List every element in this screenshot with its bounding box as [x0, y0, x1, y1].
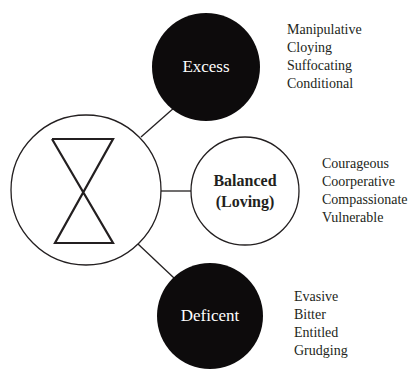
- trait-item: Vulnerable: [322, 209, 408, 227]
- balanced-label: Balanced (Loving): [191, 170, 299, 212]
- trait-item: Coorperative: [322, 173, 408, 191]
- trait-item: Compassionate: [322, 191, 408, 209]
- deficent-label: Deficent: [157, 306, 263, 326]
- excess-label: Excess: [152, 57, 260, 77]
- trait-item: Entitled: [294, 324, 348, 342]
- trait-item: Grudging: [294, 342, 348, 360]
- trait-item: Conditional: [287, 75, 362, 93]
- trait-item: Manipulative: [287, 21, 362, 39]
- connector-deficent: [138, 244, 174, 278]
- connector-excess: [141, 107, 175, 137]
- balanced-label-line2: (Loving): [191, 191, 299, 212]
- balanced-label-line1: Balanced: [191, 170, 299, 191]
- trait-item: Suffocating: [287, 57, 362, 75]
- trait-item: Bitter: [294, 306, 348, 324]
- balanced-traits-list: Courageous Coorperative Compassionate Vu…: [322, 155, 408, 227]
- trait-item: Evasive: [294, 288, 348, 306]
- deficent-traits-list: Evasive Bitter Entitled Grudging: [294, 288, 348, 360]
- trait-item: Courageous: [322, 155, 408, 173]
- trait-item: Cloying: [287, 39, 362, 57]
- excess-traits-list: Manipulative Cloying Suffocating Conditi…: [287, 21, 362, 93]
